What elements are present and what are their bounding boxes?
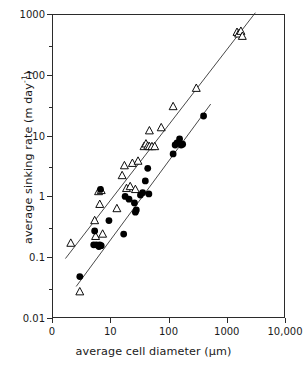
x-axis-tick <box>169 318 170 323</box>
data-point <box>113 204 121 211</box>
y-axis-tick-label: 1 <box>39 191 45 202</box>
y-axis-tick <box>47 136 52 137</box>
y-axis-tick <box>47 257 52 258</box>
y-axis-minor-tick <box>49 46 52 47</box>
y-axis-title-text: average sinking rate (m day-1) <box>21 71 34 244</box>
y-axis-tick-label: 0.1 <box>29 252 45 263</box>
data-point <box>170 151 177 158</box>
data-point <box>76 273 83 280</box>
x-axis-title-text: average cell diameter (µm) <box>76 345 232 358</box>
x-axis-tick <box>227 318 228 323</box>
plot-area: 0.010.11101001000010100100010,000 <box>52 14 285 318</box>
y-axis-tick <box>47 75 52 76</box>
data-point <box>91 228 98 235</box>
data-point <box>99 230 107 237</box>
data-point <box>120 231 127 238</box>
sinking-rate-scatter-figure: average sinking rate (m day-1) 0.010.111… <box>0 0 307 367</box>
data-point <box>106 217 113 224</box>
data-layer <box>52 14 285 318</box>
data-point <box>157 123 165 130</box>
data-point <box>179 141 186 148</box>
data-point <box>96 200 104 207</box>
data-point <box>142 177 149 184</box>
data-point <box>118 171 126 178</box>
x-axis-tick-label: 10,000 <box>268 326 303 337</box>
data-point <box>120 161 128 168</box>
y-axis-minor-tick <box>49 107 52 108</box>
y-axis-tick-label: 100 <box>26 69 45 80</box>
y-axis-minor-tick <box>49 289 52 290</box>
y-axis-minor-tick <box>49 167 52 168</box>
data-point <box>98 242 105 249</box>
x-axis-tick-label: 0 <box>49 326 55 337</box>
data-point <box>139 189 146 196</box>
x-axis-tick <box>110 318 111 323</box>
x-axis-tick-label: 1000 <box>214 326 239 337</box>
y-axis-tick-label: 0.01 <box>23 313 45 324</box>
data-point <box>97 186 104 193</box>
data-point <box>144 165 151 172</box>
data-point <box>169 102 177 109</box>
x-axis-tick-label: 10 <box>104 326 117 337</box>
y-axis-tick-label: 1000 <box>20 9 45 20</box>
data-point <box>67 239 75 246</box>
y-axis-minor-tick <box>49 228 52 229</box>
data-point <box>200 113 207 120</box>
data-point <box>145 190 152 197</box>
y-axis-tick-label: 10 <box>32 130 45 141</box>
y-axis-tick <box>47 14 52 15</box>
data-point <box>133 206 140 213</box>
x-axis-tick-label: 100 <box>159 326 178 337</box>
data-point <box>131 200 138 207</box>
data-point <box>76 287 84 294</box>
data-point <box>145 126 153 133</box>
x-axis-tick <box>285 318 286 323</box>
x-axis-title: average cell diameter (µm) <box>0 345 307 358</box>
x-axis-tick <box>52 318 53 323</box>
y-axis-tick <box>47 196 52 197</box>
